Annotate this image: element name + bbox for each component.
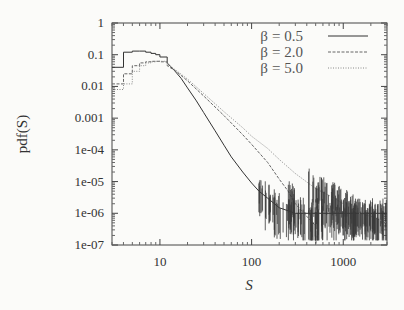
legend-label: = 2.0 (272, 44, 303, 60)
series-line-1 (112, 51, 387, 213)
legend: β= 0.5β= 2.0β= 5.0 (260, 28, 368, 76)
series-line-2 (112, 61, 316, 226)
legend-symbol: β (260, 44, 268, 60)
y-tick-label: 0.001 (75, 110, 104, 125)
y-axis-label: pdf(S) (14, 115, 31, 153)
legend-label: = 0.5 (272, 28, 303, 44)
x-axis-label: S (245, 277, 253, 293)
legend-label: = 5.0 (272, 60, 303, 76)
x-tick-label: 10 (153, 254, 166, 269)
y-tick-label: 1e-05 (74, 174, 104, 189)
y-tick-label: 0.01 (81, 78, 104, 93)
y-tick-label: 1e-07 (74, 237, 104, 252)
x-tick-label: 100 (242, 254, 262, 269)
chart: 10.10.010.0011e-041e-051e-061e-07 101001… (0, 0, 404, 310)
x-axis: 101001000 (112, 23, 387, 269)
y-tick-label: 1e-06 (74, 205, 104, 220)
series-group (112, 51, 387, 244)
y-tick-label: 1 (98, 15, 105, 30)
legend-symbol: β (260, 60, 268, 76)
y-tick-label: 1e-04 (74, 142, 104, 157)
y-tick-label: 0.1 (88, 47, 104, 62)
x-tick-label: 1000 (330, 254, 356, 269)
legend-symbol: β (260, 28, 268, 44)
